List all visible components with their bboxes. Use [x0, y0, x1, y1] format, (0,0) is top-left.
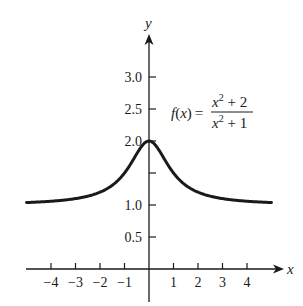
x-tick-label: 4	[244, 275, 251, 290]
formula-numerator: x2 + 2	[211, 92, 247, 110]
x-tick-label: −1	[117, 275, 132, 290]
y-axis-label: y	[143, 15, 152, 31]
x-tick-label: 3	[219, 275, 226, 290]
function-plot: x −4−3−2−11234 y 0.51.02.02.53.0 f(x)= x…	[0, 0, 303, 306]
y-tick-label: 2.5	[125, 102, 143, 117]
x-tick-label: 2	[195, 275, 202, 290]
x-axis-label: x	[286, 261, 294, 277]
y-tick-label: 3.0	[125, 70, 143, 85]
formula-annotation: f(x)= x2 + 2 x2 + 1	[171, 92, 253, 131]
y-tick-label: 2.0	[125, 134, 143, 149]
y-ticks: 0.51.02.02.53.0	[125, 70, 157, 245]
y-tick-label: 1.0	[125, 198, 143, 213]
y-tick-label: 0.5	[125, 230, 143, 245]
formula-lhs: f(x)=	[171, 105, 203, 122]
x-ticks: −4−3−2−11234	[44, 263, 251, 290]
x-tick-label: −3	[68, 275, 83, 290]
x-axis: x −4−3−2−11234	[26, 261, 294, 290]
formula-denominator: x2 + 1	[211, 113, 247, 131]
x-tick-label: 1	[170, 275, 177, 290]
x-tick-label: −2	[93, 275, 108, 290]
y-axis: y 0.51.02.02.53.0	[125, 15, 157, 302]
x-tick-label: −4	[44, 275, 59, 290]
